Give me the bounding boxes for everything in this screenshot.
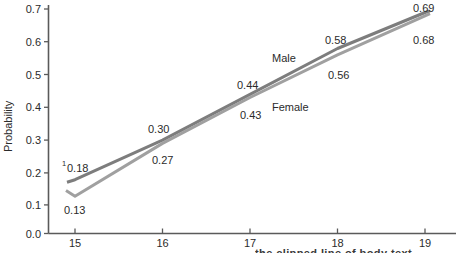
x-tick-label-1: 16 — [156, 237, 168, 249]
point-label-female-16: 0.27 — [152, 154, 173, 166]
y-axis-title: Probability — [2, 100, 14, 152]
y-tick-label-0: 0.0 — [26, 228, 41, 240]
y-tick-label-1: 0.1 — [26, 199, 41, 211]
y-tick-label-6: 0.6 — [26, 36, 41, 48]
y-tick-label-3: 0.3 — [26, 134, 41, 146]
series-line-female — [66, 14, 430, 197]
point-label-male-16: 0.30 — [148, 123, 169, 135]
y-tick-label-4: 0.4 — [26, 101, 41, 113]
point-label-male-18: 0.58 — [325, 34, 346, 46]
point-label-female-17: 0.43 — [240, 109, 261, 121]
y-tick-label-2: 0.2 — [26, 167, 41, 179]
clipped-caption-text: the clipped line of body text — [255, 248, 455, 253]
y-tick-label-5: 0.5 — [26, 69, 41, 81]
series-label-female: Female — [272, 101, 309, 113]
series-label-male: Male — [272, 52, 296, 64]
point-label-female-18: 0.56 — [328, 69, 349, 81]
point-label-male-19: 0.69 — [413, 2, 434, 14]
point-label-female-19: 0.68 — [413, 34, 434, 46]
point-label-female-15: 0.13 — [64, 204, 85, 216]
x-tick-label-0: 15 — [69, 237, 81, 249]
probability-line-chart: 0.0 0.1 0.2 0.3 0.4 0.5 0.6 0.7 Probabil… — [0, 0, 457, 253]
point-label-male-15: 0.18 — [67, 162, 88, 174]
footnote-marker: 1 — [62, 159, 66, 168]
chart-figure: 0.0 0.1 0.2 0.3 0.4 0.5 0.6 0.7 Probabil… — [0, 0, 457, 253]
y-tick-label-7: 0.7 — [26, 3, 41, 15]
point-label-male-17: 0.44 — [237, 79, 258, 91]
